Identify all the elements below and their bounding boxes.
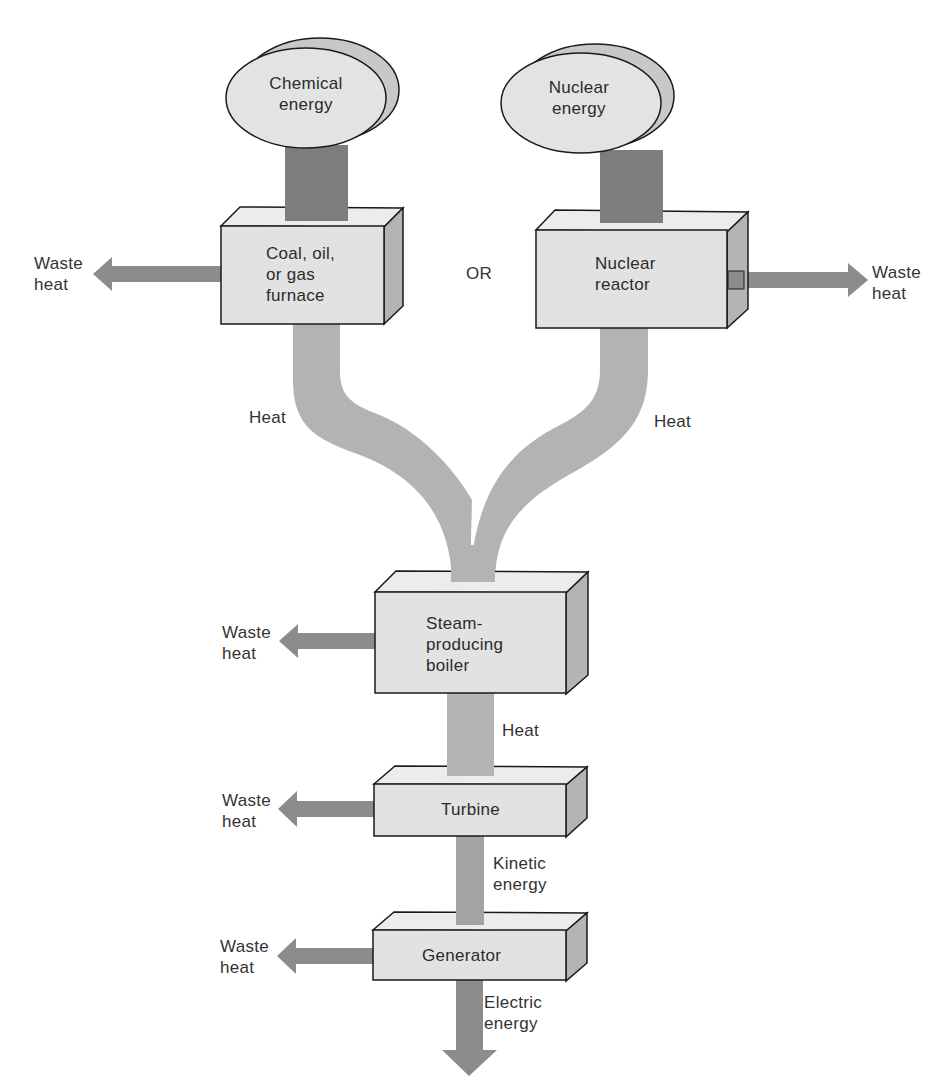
electric-line2: energy bbox=[484, 1013, 542, 1034]
waste-heat-label-reactor: Waste heat bbox=[872, 262, 921, 304]
or-label: OR bbox=[466, 263, 492, 284]
kinetic-energy-label: Kinetic energy bbox=[493, 853, 547, 895]
turbine-label: Turbine bbox=[441, 799, 500, 820]
waste-arrow-boiler bbox=[279, 624, 375, 658]
furnace-line2: or gas bbox=[266, 264, 335, 285]
waste-line1: Waste bbox=[220, 936, 269, 957]
waste-line1: Waste bbox=[222, 790, 271, 811]
electric-energy-label: Electric energy bbox=[484, 992, 542, 1034]
waste-line2: heat bbox=[872, 283, 921, 304]
kinetic-line2: energy bbox=[493, 874, 547, 895]
waste-arrow-turbine bbox=[278, 791, 374, 827]
heat-flow-right bbox=[470, 327, 648, 580]
waste-line2: heat bbox=[220, 957, 269, 978]
boiler-line2: producing bbox=[426, 634, 503, 655]
electric-line1: Electric bbox=[484, 992, 542, 1013]
boiler-label: Steam- producing boiler bbox=[426, 613, 503, 676]
waste-line2: heat bbox=[222, 643, 271, 664]
heat-label-boiler: Heat bbox=[502, 720, 539, 741]
furnace-line1: Coal, oil, bbox=[266, 243, 335, 264]
waste-line1: Waste bbox=[222, 622, 271, 643]
waste-heat-label-boiler: Waste heat bbox=[222, 622, 271, 664]
kinetic-line1: Kinetic bbox=[493, 853, 547, 874]
nuclear-energy-line2: energy bbox=[529, 98, 629, 119]
furnace-line3: furnace bbox=[266, 285, 335, 306]
heat-label-right: Heat bbox=[654, 411, 691, 432]
boiler-line3: boiler bbox=[426, 655, 503, 676]
chemical-energy-label: Chemical energy bbox=[256, 73, 356, 115]
heat-flow-branches bbox=[293, 323, 648, 585]
waste-line2: heat bbox=[222, 811, 271, 832]
boiler-line1: Steam- bbox=[426, 613, 503, 634]
waste-heat-label-furnace: Waste heat bbox=[34, 253, 83, 295]
heat-label-left: Heat bbox=[249, 407, 286, 428]
nuclear-energy-line1: Nuclear bbox=[529, 77, 629, 98]
nuclear-energy-label: Nuclear energy bbox=[529, 77, 629, 119]
reactor-label: Nuclear reactor bbox=[595, 253, 656, 295]
furnace-label: Coal, oil, or gas furnace bbox=[266, 243, 335, 306]
waste-heat-label-generator: Waste heat bbox=[220, 936, 269, 978]
waste-line1: Waste bbox=[872, 262, 921, 283]
waste-arrow-furnace bbox=[93, 257, 221, 291]
generator-label: Generator bbox=[422, 945, 501, 966]
reactor-line2: reactor bbox=[595, 274, 656, 295]
waste-heat-label-turbine: Waste heat bbox=[222, 790, 271, 832]
diagram-canvas bbox=[0, 0, 950, 1083]
chemical-energy-line1: Chemical bbox=[256, 73, 356, 94]
waste-arrow-generator bbox=[277, 938, 373, 974]
reactor-line1: Nuclear bbox=[595, 253, 656, 274]
waste-arrow-reactor bbox=[737, 263, 868, 297]
chemical-energy-line2: energy bbox=[256, 94, 356, 115]
heat-flow-left bbox=[293, 323, 472, 580]
waste-line2: heat bbox=[34, 274, 83, 295]
waste-line1: Waste bbox=[34, 253, 83, 274]
